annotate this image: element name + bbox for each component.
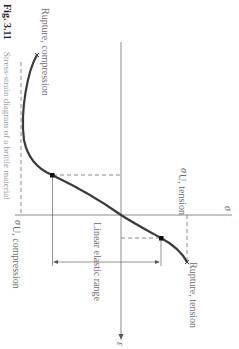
rupture-compression-label: Rupture, compression <box>40 8 51 96</box>
strain-axis-arrow-icon <box>119 334 124 340</box>
figure-caption: Fig. 3.11 Stress-strain diagram of a bri… <box>2 4 13 200</box>
caption-number: Fig. 3.11 <box>2 4 13 40</box>
arrow-right-icon <box>155 260 160 264</box>
prop-limit-point-compression <box>50 173 55 178</box>
sigma-u-compression-subscript: U, compression <box>11 226 22 289</box>
prop-limit-point-tension <box>159 236 164 241</box>
sigma-u-tension-subscript: U, tension <box>177 174 188 215</box>
sigma-u-tension-label: σ U, tension <box>177 168 190 215</box>
stress-axis-label: σ <box>223 206 234 212</box>
stress-strain-diagram: Fig. 3.11 Stress-strain diagram of a bri… <box>0 0 239 349</box>
arrow-left-icon <box>53 260 58 264</box>
sigma-u-compression-label: σ U, compression <box>11 220 24 289</box>
rupture-tension-label: Rupture, tension <box>188 262 199 328</box>
strain-axis-label: ε <box>115 342 126 346</box>
caption-text: Stress-strain diagram of a brittle mater… <box>2 52 12 200</box>
linear-elastic-range-label: Linear elastic range <box>92 222 103 301</box>
